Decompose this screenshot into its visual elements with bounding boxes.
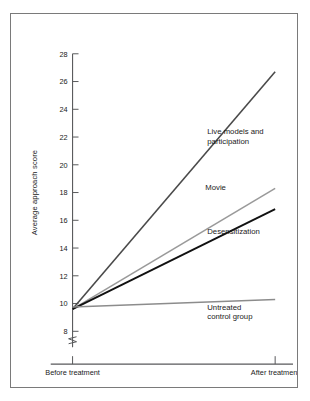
y-axis: 810121416182022242628 xyxy=(59,50,78,348)
y-tick-label: 22 xyxy=(59,133,67,142)
series-label: participation xyxy=(207,137,249,146)
y-tick-label: 26 xyxy=(59,77,67,86)
y-tick-label: 18 xyxy=(59,188,67,197)
series-label: Movie xyxy=(205,183,226,192)
y-axis-title: Average approach score xyxy=(30,150,39,235)
figure-frame: 810121416182022242628 Before treatmentAf… xyxy=(10,13,298,388)
x-tick-label: After treatment xyxy=(251,368,297,377)
y-tick-label: 14 xyxy=(59,244,67,253)
y-tick-label: 12 xyxy=(59,272,67,281)
series-line xyxy=(73,188,276,309)
y-tick-label: 24 xyxy=(59,105,67,114)
series-label: control group xyxy=(207,312,252,321)
x-axis-ticks xyxy=(73,356,276,364)
y-tick-label: 8 xyxy=(64,327,68,336)
axis-break-icon xyxy=(69,337,77,344)
x-tick-label: Before treatment xyxy=(45,368,100,377)
series-label: Desensitization xyxy=(207,227,260,236)
y-tick-label: 28 xyxy=(59,50,67,59)
y-tick-label: 20 xyxy=(59,161,67,170)
series-line xyxy=(73,299,276,307)
series-line xyxy=(73,72,276,309)
y-tick-label: 16 xyxy=(59,216,67,225)
x-axis: Before treatmentAfter treatment xyxy=(45,356,297,377)
y-tick-label: 10 xyxy=(59,299,67,308)
x-axis-tick-labels: Before treatmentAfter treatment xyxy=(45,368,297,377)
series-label: Live models and xyxy=(207,127,263,136)
series-line xyxy=(73,209,276,309)
series-label: Untreated xyxy=(207,303,241,312)
y-axis-ticks: 810121416182022242628 xyxy=(59,50,78,337)
line-chart: 810121416182022242628 Before treatmentAf… xyxy=(11,14,297,387)
series-lines xyxy=(73,72,276,309)
